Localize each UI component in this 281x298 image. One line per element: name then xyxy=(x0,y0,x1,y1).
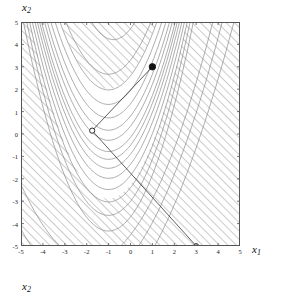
x-tick-label: 2 xyxy=(173,248,176,255)
y-tick-label: 0 xyxy=(7,131,18,138)
x-tick-label: 3 xyxy=(195,248,198,255)
y-tick-label: -2 xyxy=(7,175,18,182)
y-tick-label: -3 xyxy=(7,198,18,205)
start-point xyxy=(149,64,155,70)
plot-svg xyxy=(21,22,240,246)
x-tick-label: -5 xyxy=(18,248,23,255)
interior-point xyxy=(90,128,95,133)
y-axis-label-bottom: x2 xyxy=(22,280,31,294)
y-tick-label: -4 xyxy=(7,220,18,227)
x-tick-label: 0 xyxy=(129,248,132,255)
x-tick-label: -2 xyxy=(84,248,89,255)
x-axis-label-sub: 1 xyxy=(257,248,261,257)
y-tick-label: 2 xyxy=(7,86,18,93)
x-tick-label: 5 xyxy=(238,248,241,255)
y-tick-label: 1 xyxy=(7,108,18,115)
y-tick-label: -5 xyxy=(7,243,18,250)
y-axis-label-bottom-sub: 2 xyxy=(27,285,31,294)
contour-plot-figure: x2 x1 x2 -5-4-3-2-1012345 543210-1-2-3-4… xyxy=(0,0,281,298)
y-axis-label-top: x2 xyxy=(22,1,31,15)
hatch-layer xyxy=(21,22,240,246)
x-axis-label: x1 xyxy=(252,243,261,257)
x-tick-label: -4 xyxy=(40,248,45,255)
x-tick-label: -1 xyxy=(106,248,111,255)
y-axis-label-top-sub: 2 xyxy=(27,6,31,15)
y-tick-label: 3 xyxy=(7,63,18,70)
y-tick-label: 4 xyxy=(7,41,18,48)
x-tick-label: 4 xyxy=(216,248,219,255)
y-tick-label: 5 xyxy=(7,19,18,26)
y-tick-label: -1 xyxy=(7,153,18,160)
x-tick-label: 1 xyxy=(151,248,154,255)
x-tick-label: -3 xyxy=(62,248,67,255)
plot-area: -5-4-3-2-1012345 543210-1-2-3-4-5 xyxy=(21,22,240,246)
